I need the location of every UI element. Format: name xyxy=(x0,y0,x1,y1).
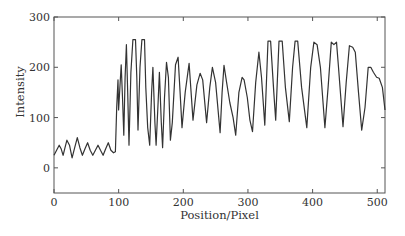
x-tick-label: 400 xyxy=(302,196,323,209)
x-axis-label: Position/Pixel xyxy=(180,208,259,222)
x-tick-label: 0 xyxy=(51,196,58,209)
line-chart: 0100200300 0100200300400500 Position/Pix… xyxy=(0,0,405,236)
x-tick-label: 100 xyxy=(108,196,129,209)
y-tick-label: 0 xyxy=(43,162,50,175)
intensity-series xyxy=(54,40,385,158)
y-tick-label: 200 xyxy=(29,61,50,74)
y-tick-label: 100 xyxy=(29,112,50,125)
intensity-line xyxy=(54,40,385,158)
y-axis-label: Intensity xyxy=(13,66,27,118)
y-tick-label: 300 xyxy=(29,11,50,24)
y-axis-ticks: 0100200300 xyxy=(29,11,385,175)
x-tick-label: 500 xyxy=(367,196,388,209)
